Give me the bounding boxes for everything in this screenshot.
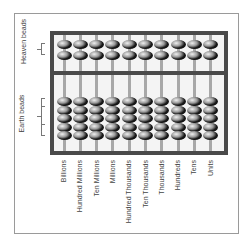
rod-label: Millions (109, 160, 116, 240)
heaven-bead[interactable] (171, 40, 186, 49)
heaven-bead[interactable] (57, 40, 72, 49)
earth-bead[interactable] (203, 97, 218, 106)
earth-bead[interactable] (203, 131, 218, 140)
heaven-bead[interactable] (203, 51, 218, 60)
earth-bead[interactable] (122, 114, 137, 123)
earth-bead[interactable] (187, 97, 202, 106)
earth-bead[interactable] (57, 97, 72, 106)
earth-bead[interactable] (187, 131, 202, 140)
earth-bead[interactable] (105, 114, 120, 123)
heaven-bead[interactable] (57, 51, 72, 60)
earth-bead[interactable] (203, 114, 218, 123)
earth-bead[interactable] (154, 114, 169, 123)
earth-bead[interactable] (73, 97, 88, 106)
rod-label: Ten Thousands (142, 160, 149, 240)
earth-bead[interactable] (122, 131, 137, 140)
earth-bead[interactable] (73, 131, 88, 140)
heaven-bead[interactable] (73, 51, 88, 60)
earth-bead[interactable] (138, 97, 153, 106)
earth-bead[interactable] (89, 131, 104, 140)
heaven-beads-label: Heaven beads (20, 17, 27, 67)
abacus-frame (50, 31, 228, 155)
earth-bead[interactable] (187, 114, 202, 123)
rod-label: Units (207, 160, 214, 240)
earth-bead[interactable] (122, 97, 137, 106)
heaven-bead[interactable] (171, 51, 186, 60)
earth-bead[interactable] (154, 131, 169, 140)
heaven-bead[interactable] (122, 40, 137, 49)
earth-bead[interactable] (57, 131, 72, 140)
earth-bead[interactable] (89, 114, 104, 123)
earth-bead[interactable] (57, 114, 72, 123)
rod-label: Hundred Millions (76, 160, 83, 240)
earth-beads-label: Earth beads (18, 89, 25, 139)
rod-label: Thousands (158, 160, 165, 240)
rod-label: Billions (60, 160, 67, 240)
heaven-bead[interactable] (105, 51, 120, 60)
earth-bead[interactable] (154, 97, 169, 106)
heaven-bead[interactable] (154, 40, 169, 49)
earth-bead[interactable] (138, 114, 153, 123)
heaven-bead[interactable] (89, 40, 104, 49)
heaven-bead[interactable] (187, 40, 202, 49)
earth-bead[interactable] (73, 114, 88, 123)
earth-bead[interactable] (105, 131, 120, 140)
heaven-bead[interactable] (154, 51, 169, 60)
earth-bead[interactable] (171, 131, 186, 140)
abacus-beam (54, 71, 224, 75)
heaven-bead[interactable] (73, 40, 88, 49)
earth-bead[interactable] (105, 97, 120, 106)
heaven-bead[interactable] (138, 51, 153, 60)
rod-label: Tens (190, 160, 197, 240)
heaven-bead[interactable] (105, 40, 120, 49)
heaven-bead[interactable] (89, 51, 104, 60)
heaven-bead[interactable] (203, 40, 218, 49)
heaven-bead[interactable] (122, 51, 137, 60)
heaven-bead[interactable] (138, 40, 153, 49)
rod-label: Hundreds (174, 160, 181, 240)
heaven-bead[interactable] (187, 51, 202, 60)
rod-label: Hundred Thousands (125, 160, 132, 240)
earth-bead[interactable] (89, 97, 104, 106)
earth-bead[interactable] (171, 97, 186, 106)
earth-bead[interactable] (138, 131, 153, 140)
earth-bead[interactable] (171, 114, 186, 123)
rod-label: Ten Millions (93, 160, 100, 240)
